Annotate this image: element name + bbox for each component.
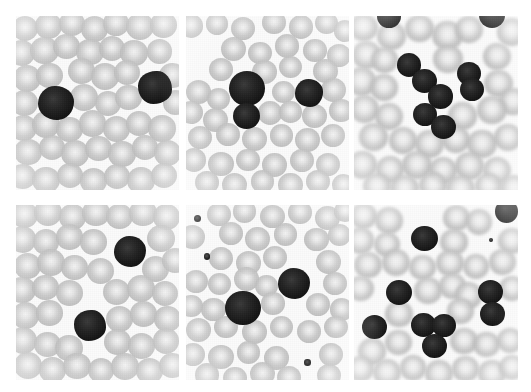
leukocyte: [495, 205, 518, 223]
erythrocyte: [39, 357, 66, 380]
platelet: [304, 359, 311, 366]
erythrocyte: [103, 279, 130, 305]
erythrocyte: [159, 353, 179, 378]
micrograph-panel-4: [16, 205, 179, 380]
micrograph-panel-3: [354, 16, 518, 190]
erythrocyte: [188, 126, 212, 149]
erythrocyte: [477, 96, 507, 124]
erythrocyte: [319, 343, 343, 366]
erythrocyte: [334, 20, 350, 42]
erythrocyte: [154, 140, 179, 166]
erythrocyte: [221, 37, 246, 61]
erythrocyte: [153, 328, 179, 354]
erythrocyte: [295, 128, 320, 152]
leukocyte: [460, 78, 484, 101]
platelet: [194, 215, 201, 222]
erythrocyte: [242, 127, 267, 151]
erythrocyte: [354, 227, 374, 253]
erythrocyte: [222, 173, 247, 190]
erythrocyte: [152, 281, 178, 306]
erythrocyte: [489, 249, 517, 275]
erythrocyte: [274, 223, 297, 246]
erythrocyte: [186, 295, 203, 318]
erythrocyte: [317, 364, 341, 380]
erythrocyte: [79, 110, 107, 137]
erythrocyte: [329, 99, 349, 122]
erythrocyte: [207, 88, 231, 111]
erythrocyte: [425, 360, 453, 380]
erythrocyte: [195, 171, 219, 190]
erythrocyte: [405, 16, 433, 42]
erythrocyte: [186, 225, 205, 249]
erythrocyte: [499, 355, 518, 380]
leukocyte: [229, 71, 266, 106]
erythrocyte: [316, 250, 341, 274]
erythrocyte: [219, 222, 243, 245]
blood-smear-field: [186, 205, 349, 380]
erythrocyte: [385, 301, 413, 327]
erythrocyte: [209, 247, 233, 270]
micrograph-panel-1: [16, 16, 179, 190]
erythrocyte: [186, 270, 208, 293]
erythrocyte: [400, 355, 427, 380]
erythrocyte: [223, 367, 246, 381]
erythrocyte: [278, 173, 302, 190]
leukocyte: [386, 280, 412, 305]
erythrocyte: [463, 254, 490, 280]
erythrocyte: [409, 255, 436, 281]
leukocyte: [431, 115, 456, 139]
erythrocyte: [354, 16, 378, 41]
erythrocyte: [473, 332, 500, 358]
erythrocyte: [70, 84, 98, 111]
erythrocyte: [56, 224, 83, 250]
erythrocyte: [251, 170, 274, 190]
erythrocyte: [389, 127, 417, 154]
leukocyte: [480, 302, 505, 326]
erythrocyte: [127, 167, 155, 190]
erythrocyte: [130, 301, 157, 327]
erythrocyte: [16, 139, 42, 166]
erythrocyte: [323, 272, 347, 295]
erythrocyte: [359, 123, 388, 151]
erythrocyte: [304, 228, 328, 251]
erythrocyte: [114, 60, 140, 85]
erythrocyte: [80, 168, 107, 190]
micrograph-figure-grid: [0, 0, 531, 392]
erythrocyte: [16, 90, 38, 116]
erythrocyte: [270, 316, 293, 339]
erythrocyte: [494, 124, 518, 151]
erythrocyte: [127, 275, 155, 302]
erythrocyte: [363, 173, 391, 190]
erythrocyte: [186, 343, 205, 366]
erythrocyte: [385, 330, 412, 356]
erythrocyte: [250, 362, 275, 380]
erythrocyte: [497, 328, 518, 353]
erythrocyte: [354, 205, 377, 229]
erythrocyte: [302, 104, 327, 128]
leukocyte: [38, 86, 73, 120]
leukocyte: [114, 236, 146, 267]
erythrocyte: [34, 205, 62, 226]
leukocyte: [411, 226, 437, 251]
erythrocyte: [354, 252, 381, 278]
erythrocyte: [483, 43, 511, 70]
erythrocyte: [80, 229, 107, 255]
erythrocyte: [237, 341, 260, 364]
erythrocyte: [186, 148, 206, 171]
erythrocyte: [279, 56, 302, 79]
blood-smear-field: [354, 16, 518, 190]
erythrocyte: [111, 353, 139, 380]
erythrocyte: [209, 58, 234, 82]
erythrocyte: [290, 149, 314, 172]
blood-smear-field: [16, 16, 179, 190]
erythrocyte: [57, 163, 83, 188]
blood-smear-field: [186, 16, 349, 190]
micrograph-panel-6: [354, 205, 518, 380]
leukocyte: [74, 310, 106, 341]
erythrocyte: [332, 174, 349, 190]
erythrocyte: [324, 316, 347, 338]
erythrocyte: [455, 16, 483, 43]
erythrocyte: [32, 167, 60, 190]
erythrocyte: [306, 293, 330, 316]
erythrocyte: [452, 356, 479, 380]
